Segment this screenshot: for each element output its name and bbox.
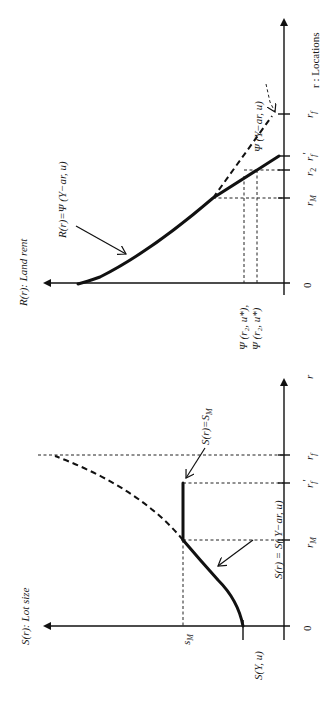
origin-label-bottom: 0: [301, 625, 313, 631]
bid-rent-label: Ψ (Y−ar, u): [252, 101, 265, 152]
lot-curve-label: S(r) = S( Y−ar, u): [272, 500, 285, 579]
psi-label-1: Ψ (r₂, u*),: [237, 305, 250, 350]
bid-rent-pointer: [266, 84, 275, 112]
sM-label: sM: [180, 633, 195, 645]
origin-label-top: 0: [301, 282, 313, 288]
lot-curve-pointer: [218, 540, 253, 566]
land-rent-panel: R(r): Land rent R(r)=Ψ (Y−ar, u) Ψ (Y−ar…: [17, 20, 321, 350]
psi-label-2: Ψ (r₂, u*): [250, 307, 263, 350]
cap-label: S(r)=SM: [199, 407, 214, 445]
rent-axis-label: R(r): Land rent: [17, 238, 30, 307]
cap-pointer: [186, 448, 205, 478]
rent-curve-pointer: [76, 226, 126, 254]
rent-curve: [78, 156, 279, 284]
tick-label-r2-top: r2: [303, 168, 318, 176]
rent-curve-label: R(r)=Ψ (Y−ar, u): [56, 161, 69, 239]
SY-label: S(Y, u): [252, 651, 265, 680]
tick-label-rM-top: rM: [303, 194, 318, 206]
r-axis-label-bottom: r: [303, 374, 315, 379]
lot-size-axis-label: S(r): Lot size: [19, 587, 32, 645]
tick-label-rf-top: rf: [303, 110, 318, 118]
tick-label-rM-bottom: rM: [303, 536, 318, 548]
lot-size-dashed: [55, 456, 183, 540]
tick-label-rfp-bottom: rf′: [300, 479, 318, 488]
tick-label-rfp-top: rf′: [300, 152, 318, 161]
lot-size-panel: S(r): Lot size S(r)=SM S(r) = S( Y−ar, u…: [19, 374, 318, 680]
land-rent-lot-size-diagram: R(r): Land rent R(r)=Ψ (Y−ar, u) Ψ (Y−ar…: [0, 0, 331, 704]
lot-size-curve: [183, 540, 243, 626]
r-axis-label-top: r : Locations: [309, 32, 321, 88]
tick-label-rf-bottom: rf: [303, 452, 318, 460]
